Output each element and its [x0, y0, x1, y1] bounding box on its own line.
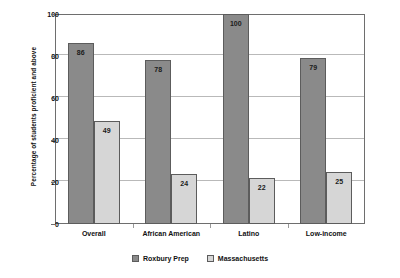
legend-label: Massachusetts	[218, 255, 268, 262]
x-tick-label-low-income: Low-income	[306, 230, 347, 237]
bar-value-label: 79	[301, 63, 325, 72]
x-tick-label-latino: Latino	[238, 230, 259, 237]
bar-value-label: 25	[327, 177, 351, 186]
x-tick-mark	[210, 224, 211, 228]
bar-value-label: 78	[146, 65, 170, 74]
bar-value-label: 24	[172, 179, 196, 188]
bar-roxbury-prep-african-american[interactable]: 78	[145, 60, 171, 224]
bar-value-label: 100	[224, 19, 248, 28]
bar-value-label: 86	[69, 48, 93, 57]
x-tick-label-african-american: African American	[142, 230, 200, 237]
bars-layer: 86497824100227925	[55, 14, 365, 224]
bar-roxbury-prep-latino[interactable]: 100	[223, 14, 249, 224]
legend-swatch-icon	[207, 255, 214, 262]
x-tick-label-overall: Overall	[82, 230, 106, 237]
bar-roxbury-prep-low-income[interactable]: 79	[300, 58, 326, 224]
y-axis-title: Percentage of students proficient and ab…	[30, 17, 37, 217]
bar-massachusetts-african-american[interactable]: 24	[171, 174, 197, 224]
bar-value-label: 22	[250, 183, 274, 192]
legend-label: Roxbury Prep	[143, 255, 189, 262]
legend-item-roxbury-prep[interactable]: Roxbury Prep	[132, 255, 189, 262]
bar-massachusetts-latino[interactable]: 22	[249, 178, 275, 224]
bar-chart: Percentage of students proficient and ab…	[0, 0, 400, 278]
bar-roxbury-prep-overall[interactable]: 86	[68, 43, 94, 224]
chart-legend: Roxbury PrepMassachusetts	[0, 255, 400, 262]
legend-item-massachusetts[interactable]: Massachusetts	[207, 255, 268, 262]
x-tick-mark	[288, 224, 289, 228]
bar-massachusetts-low-income[interactable]: 25	[326, 172, 352, 225]
legend-swatch-icon	[132, 255, 139, 262]
bar-value-label: 49	[95, 126, 119, 135]
x-tick-mark	[133, 224, 134, 228]
y-tick-mark	[51, 224, 55, 225]
bar-massachusetts-overall[interactable]: 49	[94, 121, 120, 224]
